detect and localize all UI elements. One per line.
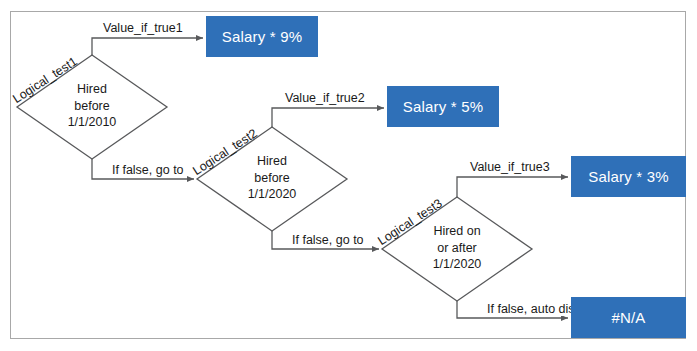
decision-3-text: Hired on or after 1/1/2020 [412,223,502,273]
edge-true-2-label: Value_if_true2 [283,91,367,105]
decision-1-line1: Hired [47,81,137,98]
decision-2-line2: before [227,170,317,187]
decision-3-line2: or after [412,240,502,257]
decision-3-line1: Hired on [412,223,502,240]
decision-2-text: Hired before 1/1/2020 [227,153,317,203]
decision-3-line3: 1/1/2020 [412,256,502,273]
edge-true-3-label: Value_if_true3 [468,160,552,174]
result-2-box[interactable]: Salary * 5% [387,86,499,127]
edge-false-1-label: If false, go to [110,163,186,177]
decision-1-line3: 1/1/2010 [47,114,137,131]
edge-true-1-label: Value_if_true1 [101,21,185,35]
result-na-box[interactable]: #N/A [571,297,686,338]
decision-2-line3: 1/1/2020 [227,186,317,203]
decision-2-line1: Hired [227,153,317,170]
decision-1-text: Hired before 1/1/2010 [47,81,137,131]
result-3-box[interactable]: Salary * 3% [571,156,686,197]
edge-false-2-label: If false, go to [290,233,366,247]
decision-1-line2: before [47,98,137,115]
result-1-box[interactable]: Salary * 9% [206,16,318,57]
flowchart-canvas: Hired before 1/1/2010 Logical_test1 Valu… [0,0,697,351]
